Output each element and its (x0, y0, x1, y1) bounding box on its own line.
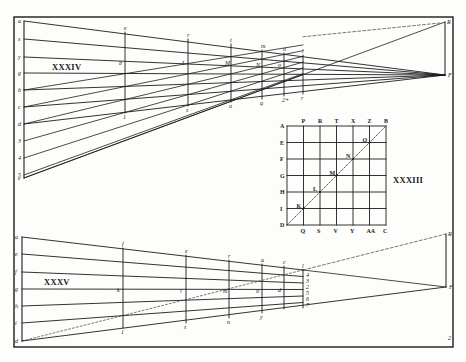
vertical-bottom-label: 1 (121, 329, 124, 335)
left-point-label: i (15, 320, 17, 326)
diagonal-point (336, 175, 338, 177)
vanishing-point-label: F (447, 72, 452, 78)
orthogonal-line (22, 287, 446, 341)
grid-left-label: F (280, 156, 284, 162)
vertical-top-label: f (122, 241, 125, 247)
vertical-top-label: l (302, 263, 304, 269)
vertical-bottom-label: s (186, 107, 189, 113)
vertical-top-label: n (283, 46, 286, 52)
vertical-bottom-label: 2+ (282, 97, 289, 103)
vertical-bottom-label: u (229, 103, 232, 109)
figure-caption-xxxiv: XXXIV (52, 62, 82, 72)
vanishing-point-label: R (447, 231, 452, 237)
grid-top-label: P (302, 118, 306, 124)
vertical-mid-label: o (256, 288, 259, 294)
orthogonal-line (24, 21, 445, 75)
vertical-top-label: r (228, 253, 231, 259)
vertical-top-label: r (187, 32, 190, 38)
left-point-label: 4 (18, 155, 21, 161)
diagonal-point (319, 191, 321, 193)
grid-top-label: R (318, 118, 323, 124)
orthogonal-line (22, 296, 303, 306)
grid-bottom-label: V (334, 228, 339, 234)
left-point-label: 3 (17, 138, 21, 144)
grid-bottom-label: Y (350, 228, 355, 234)
vertical-bottom-label: s (184, 324, 187, 330)
orthogonal-line (22, 289, 303, 290)
vertical-mid-label: o (278, 62, 281, 68)
grid-bottom-label: S (317, 228, 321, 234)
grid-diagonal-label: K (297, 203, 302, 209)
diagonal-line (24, 68, 303, 158)
orthogonal-line (303, 270, 446, 287)
vertical-top-label: l (302, 48, 304, 54)
left-point-label: a (15, 234, 18, 240)
vertical-mid-label: L (181, 60, 186, 66)
grid-diagonal-label: L (313, 186, 317, 192)
vertical-bottom-label: q (260, 100, 263, 106)
left-point-label: a (18, 18, 21, 24)
vertical-top-label: a (261, 257, 264, 263)
left-point-label: s (18, 36, 21, 42)
left-point-label: d (15, 338, 19, 344)
dashed-line (303, 234, 446, 270)
page-number: 2 (448, 335, 451, 341)
grid-bottom-label: AA (367, 228, 376, 234)
grid-diagonal-label: N (346, 153, 351, 159)
orthogonal-line (24, 57, 445, 75)
grid-top-label: X (351, 118, 356, 124)
vertical-bottom-label: r (301, 95, 304, 101)
vertical-top-label: e (185, 248, 188, 254)
grid-left-label: G (280, 173, 285, 179)
vanishing-point-label: R (446, 19, 451, 25)
left-point-label: c (18, 104, 21, 110)
geometry-diagram: 2eb1rLstMumNqno2+lrasygbcd345eFRXXXIVPRT… (0, 0, 466, 362)
grid-diagonal-label: O (363, 137, 368, 143)
vertical-mid-label: k (117, 287, 120, 293)
vertical-mid-label: m (223, 288, 228, 294)
left-point-label: e (18, 175, 21, 181)
left-point-label: g (18, 70, 21, 76)
left-point-label: e (15, 251, 18, 257)
engraved-plate: 2eb1rLstMumNqno2+lrasygbcd345eFRXXXIVPRT… (0, 0, 466, 362)
left-point-label: d (18, 121, 22, 127)
grid-top-label: T (335, 118, 339, 124)
left-point-label: b (18, 87, 21, 93)
figure-caption-xxxiii: XXXIII (393, 175, 424, 185)
orthogonal-line (24, 39, 445, 75)
diagonal-point (303, 208, 305, 210)
grid-left-label: E (280, 140, 284, 146)
grid-diagonal-label: M (330, 170, 336, 176)
left-point-label: y (17, 54, 21, 60)
vanishing-point-label: F (448, 284, 453, 290)
dashed-line (303, 23, 440, 37)
grid-top-label: Z (368, 118, 372, 124)
vertical-top-label: t (230, 37, 232, 43)
left-point-label: g (15, 286, 18, 292)
vertical-mid-label: b (119, 60, 122, 66)
grid-left-label: H (280, 189, 285, 195)
stack-label: 7 (306, 302, 310, 308)
vertical-top-label: e (124, 25, 127, 31)
figure-caption-xxxv: XXXV (44, 277, 70, 287)
grid-left-label: I (280, 206, 283, 212)
diagonal-line-main (24, 22, 445, 178)
vertical-top-label: c (283, 259, 286, 265)
grid-left-label: A (280, 123, 285, 129)
grid-top-label: B (384, 118, 388, 124)
vertical-bottom-label: y (259, 314, 263, 320)
diagonal-point (352, 158, 354, 160)
grid-bottom-label: Q (301, 228, 306, 234)
left-point-label: h (15, 303, 18, 309)
vertical-top-label: m (261, 43, 266, 49)
vertical-bottom-label: n (227, 319, 230, 325)
grid-left-label: D (280, 222, 285, 228)
vertical-bottom-label: 1 (123, 114, 126, 120)
diagonal-point (369, 142, 371, 144)
grid-bottom-label: C (383, 228, 387, 234)
vertical-mid-label: M (224, 60, 231, 66)
left-point-label: f (15, 269, 18, 275)
